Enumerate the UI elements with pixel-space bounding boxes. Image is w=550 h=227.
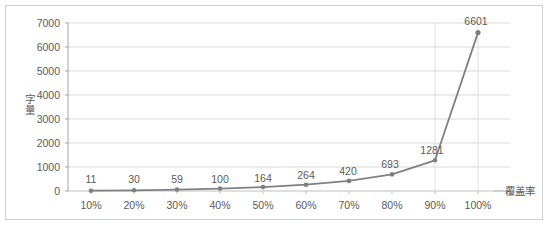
data-label-80: 693 bbox=[370, 158, 410, 170]
data-label-70: 420 bbox=[328, 165, 368, 177]
x-tick-label-30: 30% bbox=[155, 199, 199, 211]
gridlines bbox=[68, 23, 511, 191]
y-tick-label-6000: 6000 bbox=[20, 41, 60, 53]
data-label-60: 264 bbox=[286, 169, 326, 181]
y-tick-label-3000: 3000 bbox=[20, 113, 60, 125]
x-tick-label-70: 70% bbox=[327, 199, 371, 211]
x-tick-label-100: 100% bbox=[456, 199, 500, 211]
y-tick-label-2000: 2000 bbox=[20, 137, 60, 149]
chart-plot-area bbox=[6, 6, 544, 221]
x-tick-label-50: 50% bbox=[241, 199, 285, 211]
data-label-100: 6601 bbox=[456, 15, 496, 27]
y-tick-label-5000: 5000 bbox=[20, 65, 60, 77]
chart-container: 字量 字 量 覆盖率 7000 6000 5000 4000 3000 2000… bbox=[5, 5, 543, 220]
data-label-30: 59 bbox=[157, 173, 197, 185]
x-tick-label-40: 40% bbox=[198, 199, 242, 211]
x-tick-label-20: 20% bbox=[112, 199, 156, 211]
data-label-90: 1281 bbox=[412, 144, 452, 156]
y-tick-label-0: 0 bbox=[20, 185, 60, 197]
x-tick-label-80: 80% bbox=[370, 199, 414, 211]
y-tick-label-1000: 1000 bbox=[20, 161, 60, 173]
x-tick-label-60: 60% bbox=[284, 199, 328, 211]
x-axis-title: 覆盖率 bbox=[505, 186, 535, 197]
y-tick-label-7000: 7000 bbox=[20, 17, 60, 29]
data-label-20: 30 bbox=[114, 173, 154, 185]
vertical-category-gridlines bbox=[435, 23, 478, 191]
y-tick-label-4000: 4000 bbox=[20, 89, 60, 101]
x-tick-label-90: 90% bbox=[413, 199, 457, 211]
data-point-markers bbox=[89, 30, 481, 193]
data-label-10: 11 bbox=[71, 173, 111, 185]
x-tick-label-10: 10% bbox=[69, 199, 113, 211]
data-label-50: 164 bbox=[243, 172, 283, 184]
data-label-40: 100 bbox=[200, 173, 240, 185]
